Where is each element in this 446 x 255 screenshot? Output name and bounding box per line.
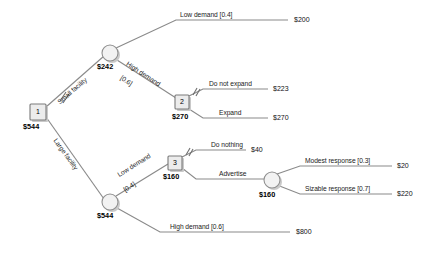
branch-label-do-nothing: Do nothing — [211, 141, 243, 149]
decision-tree-diagram: 1 2 3 $544 $242 $270 $544 $160 $160 Smal… — [0, 0, 446, 255]
branch-label-advertise: Advertise — [219, 170, 246, 178]
decision-node-2-number: 2 — [175, 98, 189, 105]
chance-node-large-facility-value: $544 — [97, 211, 113, 220]
chance-node-advertise[interactable] — [264, 172, 282, 190]
payoff-sizable-response: $220 — [397, 190, 413, 197]
decision-node-3-value: $160 — [163, 172, 179, 181]
payoff-low-demand-small: $200 — [294, 16, 310, 23]
chance-node-advertise-value: $160 — [259, 190, 275, 199]
branch-label-expand: Expand — [219, 109, 241, 117]
branch-label-modest-response: Modest response [0.3] — [305, 157, 370, 165]
edge-large-facility — [46, 117, 104, 199]
branch-label-do-not-expand: Do not expand — [209, 80, 252, 88]
branch-label-high-demand-large: High demand [0.6] — [170, 223, 224, 231]
payoff-expand: $270 — [273, 114, 289, 121]
payoff-modest-response: $20 — [397, 162, 409, 169]
tree-edges-and-nodes — [0, 0, 446, 255]
decision-node-1-number: 1 — [30, 108, 46, 115]
payoff-do-nothing: $40 — [251, 146, 263, 153]
branch-label-low-demand-small: Low demand [0.4] — [180, 11, 232, 19]
payoff-do-not-expand: $223 — [273, 85, 289, 92]
chance-node-large-facility[interactable] — [102, 194, 120, 212]
edge-modest-response — [277, 166, 392, 174]
edge-low-demand-small — [116, 20, 288, 48]
payoff-high-demand-large: $800 — [296, 228, 312, 235]
chance-node-small-facility-value: $242 — [97, 62, 113, 71]
decision-node-2-value: $270 — [172, 112, 188, 121]
edge-do-not-expand — [189, 89, 268, 96]
branch-label-sizable-response: Sizable response [0.7] — [305, 185, 370, 193]
decision-node-1-value: $544 — [23, 122, 39, 131]
decision-node-3-number: 3 — [168, 159, 182, 166]
